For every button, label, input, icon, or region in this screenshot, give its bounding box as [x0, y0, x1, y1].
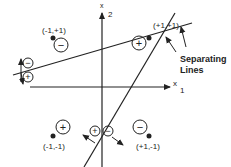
point-neg1-pos1: (-1,+1) −	[42, 26, 68, 52]
x1-axis-subscript: 1	[180, 86, 185, 95]
point-neg1-neg1: + (-1,-1)	[43, 120, 70, 151]
xor-diagram: x 1 x 2 − + + − (-1,+1) − (+1,+1) + +	[0, 0, 231, 167]
x1-axis-label: x	[173, 79, 177, 88]
svg-text:−: −	[137, 121, 143, 133]
annotation-lines: Lines	[180, 65, 204, 75]
line2-normal-arrow	[83, 135, 95, 143]
annotation-arrow-1	[166, 37, 176, 52]
svg-text:+: +	[92, 126, 97, 136]
line1-minus-sign: −	[23, 58, 33, 68]
line2-normal-arrow-right	[112, 137, 123, 145]
point-pos1-neg1: − (+1,-1)	[133, 120, 160, 151]
svg-text:−: −	[58, 39, 64, 51]
separating-line-2	[84, 13, 175, 167]
svg-text:+: +	[60, 121, 66, 133]
line2-minus-sign: −	[103, 126, 113, 136]
svg-text:+: +	[25, 72, 30, 82]
line1-plus-sign: +	[23, 72, 33, 82]
svg-text:−: −	[25, 58, 30, 68]
annotation-arrow-2	[181, 27, 186, 47]
annotation-separating: Separating	[180, 54, 227, 64]
svg-text:(+1,+1): (+1,+1)	[153, 21, 179, 30]
svg-text:+: +	[136, 37, 142, 49]
svg-text:−: −	[105, 126, 110, 136]
x2-axis-label: x	[100, 2, 104, 9]
svg-text:(-1,+1): (-1,+1)	[42, 26, 66, 35]
x2-axis-subscript: 2	[108, 10, 113, 19]
svg-text:(-1,-1): (-1,-1)	[43, 142, 65, 151]
svg-text:(+1,-1): (+1,-1)	[136, 142, 160, 151]
line2-plus-sign: +	[90, 126, 100, 136]
